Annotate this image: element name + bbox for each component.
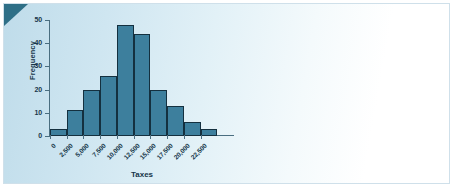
histogram-bar [201, 129, 218, 136]
bar-series [50, 20, 234, 136]
x-axis-tick [201, 135, 202, 139]
histogram-bar [167, 106, 184, 136]
x-axis-tick [117, 135, 118, 139]
histogram-bar [67, 110, 84, 136]
histogram-bar [50, 129, 67, 136]
histogram-bar [117, 25, 134, 136]
x-axis-tick [150, 135, 151, 139]
y-axis-tick-label: 10 [22, 109, 42, 116]
histogram-bar [83, 90, 100, 136]
x-axis-tick [134, 135, 135, 139]
x-axis-tick [67, 135, 68, 139]
y-axis-tick-label: 20 [22, 86, 42, 93]
y-axis-tick-label: 40 [22, 39, 42, 46]
x-axis-tick [50, 135, 51, 139]
x-axis-tick [184, 135, 185, 139]
x-axis-tick [83, 135, 84, 139]
y-axis-tick-label: 30 [22, 62, 42, 69]
y-axis-tick-label: 50 [22, 16, 42, 23]
histogram-chart: Frequency 01020304050 02,5005,0007,50010… [4, 4, 450, 184]
x-axis-title: Taxes [49, 170, 235, 179]
y-axis-tick-label: 0 [22, 132, 42, 139]
x-axis-tick [100, 135, 101, 139]
histogram-bar [134, 34, 151, 136]
histogram-bar [150, 90, 167, 136]
histogram-bar [184, 122, 201, 136]
histogram-bar [100, 76, 117, 136]
x-axis-tick [167, 135, 168, 139]
figure-panel: Frequency 01020304050 02,5005,0007,50010… [3, 3, 450, 184]
screenshot-root: Frequency 01020304050 02,5005,0007,50010… [0, 0, 453, 187]
